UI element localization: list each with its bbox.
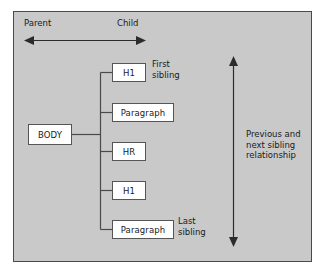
last-sibling-annotation: Last sibling: [178, 216, 206, 237]
last-sibling-annotation-line-1: Last: [178, 216, 206, 227]
last-sibling-annotation-line-2: sibling: [178, 227, 206, 238]
node-body[interactable]: BODY: [28, 124, 72, 145]
sibling-relationship-caption-line-3: relationship: [246, 150, 301, 161]
first-sibling-annotation-line-2: sibling: [152, 70, 180, 81]
node-h1-first[interactable]: H1: [112, 63, 146, 82]
sibling-relationship-caption-line-2: next sibling: [246, 140, 301, 151]
first-sibling-annotation-line-1: First: [152, 59, 180, 70]
parent-child-arrow: [24, 36, 146, 45]
node-h1-fourth[interactable]: H1: [112, 181, 146, 200]
node-hr-third[interactable]: HR: [112, 142, 146, 161]
node-paragraph-last[interactable]: Paragraph: [112, 220, 174, 239]
tree-connector-lines: [72, 73, 112, 230]
sibling-relationship-caption: Previous and next sibling relationship: [246, 129, 301, 161]
sibling-relationship-caption-line-1: Previous and: [246, 129, 301, 140]
node-paragraph-second[interactable]: Paragraph: [112, 103, 174, 122]
first-sibling-annotation: First sibling: [152, 59, 180, 80]
diagram-canvas: Parent Child BODY H1 Paragraph HR H1 Par…: [0, 0, 326, 278]
parent-axis-label: Parent: [24, 18, 51, 28]
sibling-relationship-arrow: [229, 56, 238, 247]
child-axis-label: Child: [117, 18, 138, 28]
